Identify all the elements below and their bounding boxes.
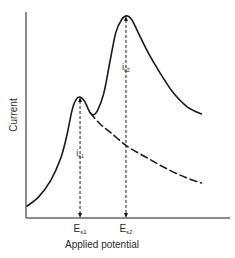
peak-current-label-s2: is2 xyxy=(122,62,130,73)
arrowhead-down-s2 xyxy=(124,213,128,218)
y-axis-label: Current xyxy=(8,98,19,132)
series-first-wave-decay xyxy=(90,113,201,183)
chart: is1is2Es1Es2 Current Applied potential xyxy=(0,0,235,258)
x-tick-label-s1: Es1 xyxy=(74,223,88,235)
peak-current-label-s1: is1 xyxy=(76,148,84,159)
arrowhead-down-s1 xyxy=(78,213,82,218)
x-tick-label-s2: Es2 xyxy=(119,223,133,235)
series-combined-wave xyxy=(27,16,201,206)
x-axis-label: Applied potential xyxy=(65,239,139,250)
